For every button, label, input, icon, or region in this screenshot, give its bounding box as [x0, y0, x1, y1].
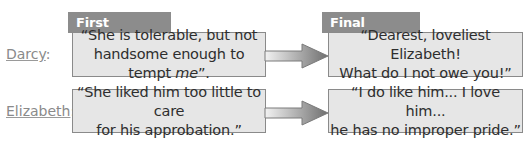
darcy-first-impression-box: “She is tolerable, but not handsome enou… — [72, 32, 266, 77]
quote-line-2: What do I not owe you!” — [329, 64, 522, 83]
quote-line-2: he has no improper pride.” — [329, 121, 522, 140]
quote-line-1: “I do like him... I love him... — [329, 83, 522, 121]
quote-line-1: “She liked him too little to care — [73, 83, 265, 121]
quote-line-1: “She is tolerable, but not — [73, 26, 265, 45]
row-label-elizabeth: Elizabeth: — [6, 103, 75, 119]
quote-text: ”. — [198, 65, 210, 81]
elizabeth-first-impression-box: “She liked him too little to care for hi… — [72, 89, 266, 133]
character-name: Darcy — [6, 46, 46, 62]
right-arrow-icon — [264, 100, 330, 126]
quote-line-2: for his approbation.” — [73, 121, 265, 140]
emphasis-text: me — [175, 65, 198, 81]
quote-line-1: “Dearest, loveliest Elizabeth! — [329, 26, 522, 64]
darcy-final-opinion-box: “Dearest, loveliest Elizabeth! What do I… — [328, 32, 523, 77]
colon: : — [46, 46, 51, 62]
quote-line-2: handsome enough to tempt me”. — [73, 45, 265, 83]
row-label-darcy: Darcy: — [6, 46, 51, 62]
character-name: Elizabeth — [6, 103, 70, 119]
elizabeth-final-opinion-box: “I do like him... I love him... he has n… — [328, 89, 523, 133]
right-arrow-icon — [264, 43, 330, 69]
quote-text: handsome enough to tempt — [94, 46, 245, 81]
